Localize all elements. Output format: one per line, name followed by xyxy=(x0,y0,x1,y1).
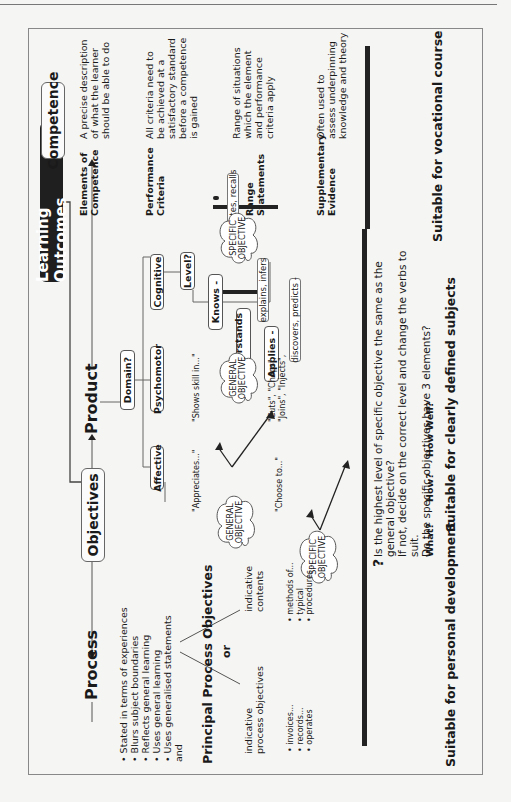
level-knows: Knows - xyxy=(208,274,223,330)
principal-process-title: Principal Process Objectives xyxy=(200,565,215,764)
cloud-general-objective-product: GENERALOBJECTIVE xyxy=(215,349,261,407)
process-bullets: Stated in terms of experiences Blurs sub… xyxy=(118,602,184,762)
or-label: or xyxy=(220,645,233,658)
competence-footer: Suitable for vocational course xyxy=(430,30,445,242)
domain-question: Domain? xyxy=(120,350,135,410)
process-heading: Process xyxy=(82,630,101,700)
element-how: How? xyxy=(424,473,435,502)
level-understands-verbs: explains, infers xyxy=(257,258,269,322)
quote-cuts-chops: "Cuts", "Chops","Joins", "Injects", xyxy=(268,355,287,422)
level-applies-verbs: discovers, predicts - xyxy=(289,278,301,362)
element-how-well: How Well? xyxy=(424,402,435,457)
element-what: What? xyxy=(424,523,435,557)
product-divider xyxy=(362,229,367,567)
level-question: Level? xyxy=(180,252,195,290)
process-footer: Suitable for personal development xyxy=(443,522,458,767)
cloud-label: SPECIFICOBJECTIVE xyxy=(229,217,247,260)
quote-appreciates: "Appreciates..." xyxy=(192,450,202,512)
domain-cognitive: Cognitive xyxy=(150,254,164,310)
competence-divider xyxy=(365,46,370,229)
contents-list: methods of... typical procedures... xyxy=(286,562,315,622)
objectives-box: Objectives xyxy=(81,468,105,562)
indicative-process-objectives: indicativeprocess objectives xyxy=(243,666,265,754)
cloud-label: GENERALOBJECTIVE xyxy=(226,501,244,544)
quote-choose-to: "Choose to..." xyxy=(275,457,285,512)
question-block: ? Is the highest level of specific objec… xyxy=(372,227,432,567)
domain-affective: Affective xyxy=(150,446,164,490)
competence-box: Competence xyxy=(41,82,65,159)
question-mark-icon: ? xyxy=(372,559,384,567)
domain-psychomotor: Psychomotor xyxy=(150,346,164,412)
product-footer: Suitable for clearly defined subjects xyxy=(443,277,458,532)
cloud-specific-objective-product: SPECIFICOBJECTIVE xyxy=(215,209,261,267)
quote-shows-skill: "Shows skill in..." xyxy=(192,353,202,422)
process-objectives-list: invoices... records... operates xyxy=(286,704,315,752)
ladder-rail-specific xyxy=(213,196,219,200)
indicative-contents: indicativecontents xyxy=(243,566,265,612)
cloud-label: GENERALOBJECTIVE xyxy=(229,357,247,400)
rotated-document-page: Learning Outcomes Objectives Product Pro… xyxy=(0,0,511,802)
product-heading: Product xyxy=(82,363,101,434)
cloud-general-objective: GENERALOBJECTIVE xyxy=(212,492,258,552)
process-divider xyxy=(362,562,367,746)
